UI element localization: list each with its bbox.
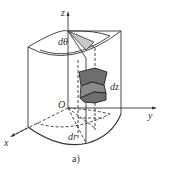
y-axis-label: y (147, 110, 153, 121)
dz-label: dz (110, 81, 119, 92)
z-axis-label: z (60, 7, 65, 18)
dr-label: dr (68, 131, 77, 142)
diagram-canvas: z y x O dθ dz dr a) (0, 0, 169, 177)
origin-label: O (58, 99, 65, 110)
x-axis-label: x (3, 137, 9, 148)
caption: a) (72, 153, 80, 165)
d-theta-label: dθ (58, 36, 68, 47)
cylinder-diagram: z y x O dθ dz dr a) (0, 0, 169, 177)
